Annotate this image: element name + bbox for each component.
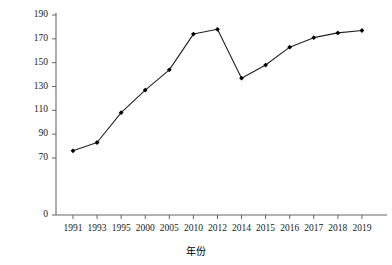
x-axis-ticks	[73, 215, 362, 219]
axis-lines	[56, 13, 387, 215]
y-axis-tick-label: 170	[4, 34, 48, 44]
data-point-marker	[360, 28, 365, 33]
x-axis-title: 年份	[0, 243, 392, 258]
data-point-marker	[71, 148, 76, 153]
data-point-marker	[215, 27, 220, 32]
y-axis-tick-label: 190	[4, 10, 48, 20]
data-point-marker	[311, 35, 316, 40]
y-axis-tick-label: 90	[4, 129, 48, 139]
data-line	[73, 29, 362, 151]
y-axis-tick-label: 130	[4, 82, 48, 92]
y-axis-tick-label: 110	[4, 105, 48, 115]
data-point-marker	[335, 30, 340, 35]
y-axis-ticks	[52, 15, 56, 215]
y-axis-tick-label: 70	[4, 153, 48, 163]
data-point-markers	[71, 27, 365, 153]
x-axis-tick-label: 2019	[340, 224, 384, 234]
line-chart: 07090110130150170190 1991199319952000200…	[0, 0, 392, 265]
data-point-marker	[239, 76, 244, 81]
y-axis-tick-label: 150	[4, 58, 48, 68]
y-axis-tick-label: 0	[4, 210, 48, 220]
